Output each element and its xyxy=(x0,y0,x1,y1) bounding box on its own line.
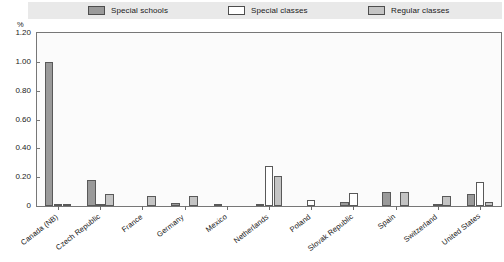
bar xyxy=(87,180,96,206)
x-axis-label: France xyxy=(120,212,144,234)
y-axis-tick: 0.60 xyxy=(0,115,36,125)
bar xyxy=(382,192,391,206)
y-axis-tick: 1.20 xyxy=(0,28,36,38)
y-axis-tick-label: 1.00 xyxy=(0,57,36,67)
bar xyxy=(400,192,409,206)
x-axis-label: Germany xyxy=(155,212,185,239)
bar xyxy=(442,196,451,206)
bar xyxy=(349,193,358,206)
bar xyxy=(265,166,274,206)
legend-item-special-classes: Special classes xyxy=(228,6,308,15)
x-axis-label: Poland xyxy=(288,212,312,234)
x-axis-label: Czech Republic xyxy=(54,212,102,252)
x-axis-label: Slovak Republic xyxy=(306,212,355,253)
y-axis-tick: 0.80 xyxy=(0,86,36,96)
y-axis-tick: 0.20 xyxy=(0,172,36,182)
y-axis-tick-label: 0.20 xyxy=(0,172,36,182)
legend-label: Regular classes xyxy=(391,6,449,15)
x-axis-label: Spain xyxy=(376,212,397,231)
bar xyxy=(274,176,283,206)
x-axis-label: Switzerland xyxy=(402,212,439,244)
bar xyxy=(45,62,54,206)
legend-swatch-icon xyxy=(88,6,105,15)
legend-item-regular-classes: Regular classes xyxy=(368,6,449,15)
bar xyxy=(467,194,476,206)
y-axis-tick-label: 0.40 xyxy=(0,143,36,153)
legend-swatch-icon xyxy=(368,6,385,15)
chart-legend: Special schools Special classes Regular … xyxy=(28,2,502,19)
y-axis-tick: 1.00 xyxy=(0,57,36,67)
bar xyxy=(105,194,114,206)
bar xyxy=(147,196,156,206)
legend-label: Special classes xyxy=(251,6,308,15)
legend-swatch-icon xyxy=(228,6,245,15)
legend-label: Special schools xyxy=(111,6,168,15)
y-axis-tick: 0.40 xyxy=(0,143,36,153)
bar xyxy=(189,196,198,206)
x-axis-label: Canada (NB) xyxy=(19,212,60,247)
bar xyxy=(476,182,485,207)
chart-screenshot: Special schools Special classes Regular … xyxy=(0,0,504,262)
x-axis-label: United States xyxy=(440,212,482,248)
x-axis-label: Mexico xyxy=(204,212,229,234)
legend-item-special-schools: Special schools xyxy=(88,6,168,15)
bar-series-layer xyxy=(37,33,501,206)
x-axis-label: Netherlands xyxy=(232,212,270,245)
y-axis-tick-label: 0.60 xyxy=(0,115,36,125)
y-axis-tick-label: 1.20 xyxy=(0,28,36,38)
y-axis-tick-label: 0.80 xyxy=(0,86,36,96)
x-axis-labels: Canada (NB)Czech RepublicFranceGermanyMe… xyxy=(0,206,504,262)
